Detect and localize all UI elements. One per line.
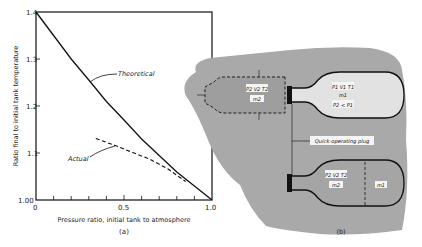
plot-frame (36, 12, 212, 200)
plug-label: Quick-operating plug (315, 138, 370, 145)
top-plug (287, 86, 292, 104)
x-tick-label: 0 (33, 204, 37, 212)
left-tank-state: P2 V2 T2 (246, 86, 268, 92)
chart-panel: 1.4 1.3 1.2 1.1 1.00 0 0.5 1.0 Pressure … (12, 9, 216, 236)
bottom-tank-state: P2 V2 T2 (325, 172, 347, 178)
y-tick-label: 1.1 (27, 150, 38, 158)
theoretical-leader (90, 74, 117, 82)
left-tank-mass: m2 (253, 96, 261, 102)
y-tick-label: 1.00 (18, 197, 34, 205)
actual-leader (90, 146, 115, 157)
figure: 1.4 1.3 1.2 1.1 1.00 0 0.5 1.0 Pressure … (0, 0, 422, 247)
diagram-caption: (b) (336, 228, 345, 236)
actual-label: Actual (67, 155, 89, 163)
top-tank-state: P1 V1 T1 (332, 84, 354, 90)
y-axis-label: Ratio final to initial tank temperature (12, 46, 20, 167)
y-tick-label: 1.4 (26, 9, 38, 17)
top-tank-condition: P2 < P1 (333, 102, 353, 108)
bottom-tank-mass: m2 (332, 182, 340, 188)
actual-curve (96, 139, 186, 182)
x-tick-label: 1.0 (205, 204, 216, 212)
theoretical-label: Theoretical (118, 70, 155, 78)
x-ticks (54, 195, 195, 200)
top-tank-mass: m1 (339, 92, 347, 98)
bottom-plug (287, 174, 292, 192)
left-tank-outline (205, 77, 285, 113)
x-tick-label: 0.5 (118, 204, 129, 212)
y-tick-label: 1.2 (26, 103, 37, 111)
chart-caption: (a) (119, 228, 129, 236)
x-axis-label: Pressure ratio, initial tank to atmosphe… (58, 216, 191, 224)
bottom-tank-m1: m1 (377, 182, 385, 188)
y-tick-label: 1.3 (26, 56, 37, 64)
theoretical-curve (36, 12, 212, 200)
diagram-panel: P2 V2 T2 m2 P1 V1 T1 m1 P2 < P1 Quick-op… (184, 47, 407, 236)
